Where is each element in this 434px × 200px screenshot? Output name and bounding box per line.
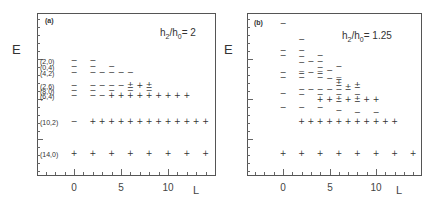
level-marker: + <box>363 118 370 126</box>
y-axis-tick <box>37 139 43 140</box>
x-axis-tick <box>187 172 188 175</box>
x-axis-tick <box>264 172 265 175</box>
y-axis-tick <box>37 107 40 108</box>
x-axis-tick <box>83 172 84 175</box>
level-marker: ± <box>345 84 352 92</box>
x-tick-10: 10 <box>162 182 173 193</box>
level-marker: + <box>146 92 153 100</box>
ratio-value: = 2 <box>182 27 196 38</box>
x-axis-tick <box>159 172 160 175</box>
level-marker: − <box>317 104 324 112</box>
level-marker: + <box>136 118 143 126</box>
level-marker: + <box>118 92 125 100</box>
x-axis-tick <box>206 172 207 175</box>
level-marker: + <box>317 150 324 158</box>
level-marker: + <box>99 118 106 126</box>
y-axis-tick <box>37 131 40 132</box>
y-axis-tick <box>247 107 250 108</box>
level-marker: − <box>373 109 380 117</box>
level-marker: − <box>317 74 324 82</box>
y-axis-tick <box>37 51 40 52</box>
level-marker: + <box>146 150 153 158</box>
level-marker: + <box>410 150 417 158</box>
level-marker: + <box>89 118 96 126</box>
x-axis-tick <box>376 169 377 175</box>
level-marker: − <box>308 86 315 94</box>
level-marker: − <box>127 69 134 77</box>
y-axis-tick <box>37 147 40 148</box>
level-marker: − <box>298 36 305 44</box>
level-marker: − <box>89 92 96 100</box>
y-axis-tick <box>247 27 250 28</box>
level-marker: + <box>326 96 333 104</box>
level-marker: − <box>335 63 342 71</box>
ratio-slash: /h <box>351 30 359 41</box>
level-marker: + <box>127 150 134 158</box>
y-axis-tick <box>247 67 250 68</box>
level-marker: + <box>317 118 324 126</box>
y-axis-label: E <box>12 42 21 57</box>
y-axis-tick <box>247 35 250 36</box>
level-marker: − <box>280 74 287 82</box>
y-axis-tick <box>247 59 253 60</box>
panel-a: E (a) h2/h0= 2 0 5 10 L (2,0)−−(0,4)−−−(… <box>0 0 217 200</box>
y-axis-tick <box>247 19 250 20</box>
level-marker: + <box>108 150 115 158</box>
state-label: (6,4) <box>40 93 54 100</box>
state-label: (4,2) <box>40 70 54 77</box>
level-marker: + <box>373 96 380 104</box>
level-marker: + <box>382 118 389 126</box>
x-tick-5: 5 <box>327 182 333 193</box>
level-marker: + <box>174 118 181 126</box>
level-marker: − <box>99 92 106 100</box>
y-axis-tick <box>247 155 250 156</box>
level-marker: + <box>146 118 153 126</box>
x-axis-tick <box>283 169 284 175</box>
level-marker: − <box>298 91 305 99</box>
y-axis-tick <box>247 51 250 52</box>
level-marker: − <box>354 109 361 117</box>
y-axis-tick <box>247 131 250 132</box>
level-marker: + <box>280 150 287 158</box>
x-axis-tick <box>367 172 368 175</box>
level-marker: − <box>99 69 106 77</box>
level-marker: − <box>280 52 287 60</box>
y-axis-tick <box>247 99 253 100</box>
level-marker: − <box>308 69 315 77</box>
level-marker: + <box>308 118 315 126</box>
y-axis-tick <box>37 35 40 36</box>
x-axis-tick <box>385 172 386 175</box>
level-marker: + <box>127 92 134 100</box>
level-marker: + <box>136 82 143 90</box>
level-marker: + <box>183 118 190 126</box>
y-axis-tick <box>247 147 250 148</box>
x-axis-tick <box>121 169 122 175</box>
y-axis-tick <box>247 115 250 116</box>
x-axis-tick <box>302 172 303 175</box>
level-marker: + <box>165 92 172 100</box>
level-marker: − <box>326 86 333 94</box>
level-marker: + <box>335 150 342 158</box>
level-marker: + <box>202 150 209 158</box>
level-marker: + <box>108 92 115 100</box>
level-marker: + <box>174 92 181 100</box>
y-axis-tick <box>247 43 250 44</box>
y-axis-tick <box>37 171 40 172</box>
state-label: (14,0) <box>40 151 58 158</box>
x-axis-tick <box>320 172 321 175</box>
level-marker: − <box>118 69 125 77</box>
level-marker: − <box>71 92 78 100</box>
x-axis-tick <box>149 172 150 175</box>
x-axis-tick <box>196 172 197 175</box>
y-axis-label: E <box>224 42 233 57</box>
ratio-label: h2/h0= 1.25 <box>342 30 392 43</box>
level-marker: + <box>108 118 115 126</box>
x-axis-tick <box>339 172 340 175</box>
ratio-slash: /h <box>169 27 177 38</box>
panel-tag: (a) <box>45 17 54 24</box>
x-axis-tick <box>168 169 169 175</box>
level-marker: − <box>71 69 78 77</box>
level-marker: + <box>298 118 305 126</box>
level-marker: − <box>89 69 96 77</box>
x-axis-tick <box>102 172 103 175</box>
